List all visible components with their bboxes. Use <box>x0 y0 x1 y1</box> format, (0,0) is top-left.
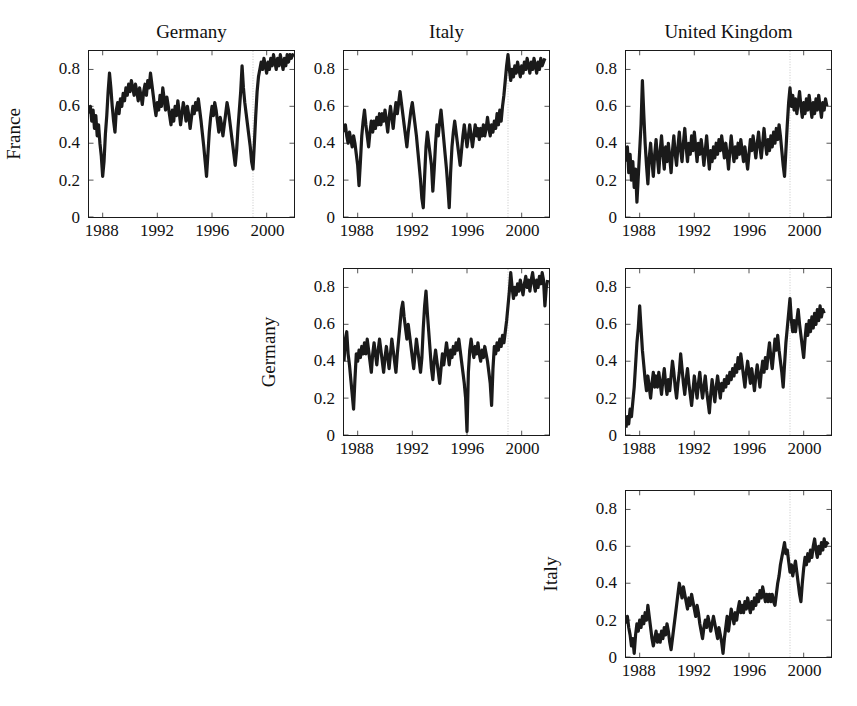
xtick-label: 2000 <box>490 440 554 457</box>
axis-ticks-france-uk <box>626 51 831 217</box>
row-label-france: France <box>4 59 26 209</box>
plot-panel-italy-uk <box>625 490 832 658</box>
ytick-label: 0.2 <box>571 172 617 189</box>
ytick-label: 0.6 <box>571 97 617 114</box>
series-line-france-uk <box>626 81 827 203</box>
plot-panel-germany-uk <box>625 268 832 436</box>
axis-ticks-germany-uk <box>626 269 831 435</box>
column-title-italy: Italy <box>343 22 550 41</box>
series-line-italy-uk <box>626 539 828 653</box>
row-label-germany: Germany <box>259 277 281 427</box>
axis-ticks-france-italy <box>344 51 549 217</box>
ytick-label: 0.2 <box>289 390 335 407</box>
ytick-label: 0.8 <box>571 278 617 295</box>
plot-panel-germany-italy <box>343 268 550 436</box>
ytick-label: 0.4 <box>34 134 80 151</box>
row-label-italy: Italy <box>541 499 563 649</box>
ytick-label: 0.8 <box>571 500 617 517</box>
plot-panel-france-germany <box>88 50 295 218</box>
ytick-label: 0.8 <box>289 60 335 77</box>
ytick-label: 0.8 <box>571 60 617 77</box>
ytick-label: 0.4 <box>571 134 617 151</box>
column-title-united-kingdom: United Kingdom <box>625 22 832 41</box>
series-line-france-italy <box>344 55 545 208</box>
ytick-label: 0.8 <box>34 60 80 77</box>
ytick-label: 0.6 <box>571 315 617 332</box>
ytick-label: 0.6 <box>289 97 335 114</box>
ytick-label: 0.2 <box>571 612 617 629</box>
ytick-label: 0.4 <box>289 134 335 151</box>
ytick-label: 0.6 <box>571 537 617 554</box>
ytick-label: 0.2 <box>34 172 80 189</box>
ytick-label: 0.6 <box>289 315 335 332</box>
xtick-label: 2000 <box>490 222 554 239</box>
ytick-label: 0.2 <box>571 390 617 407</box>
series-line-germany-italy <box>344 273 548 432</box>
axis-ticks-france-germany <box>89 51 294 217</box>
plot-panel-france-italy <box>343 50 550 218</box>
ytick-label: 0.6 <box>34 97 80 114</box>
ytick-label: 0.8 <box>289 278 335 295</box>
figure-canvas: GermanyItalyUnited Kingdom00.20.40.60.81… <box>0 0 857 706</box>
plot-panel-france-uk <box>625 50 832 218</box>
ytick-label: 0.4 <box>289 352 335 369</box>
xtick-label: 2000 <box>772 222 836 239</box>
xtick-label: 2000 <box>772 662 836 679</box>
column-title-germany: Germany <box>88 22 295 41</box>
ytick-label: 0.4 <box>571 574 617 591</box>
ytick-label: 0.2 <box>289 172 335 189</box>
series-line-france-germany <box>89 55 294 177</box>
xtick-label: 2000 <box>772 440 836 457</box>
series-line-germany-uk <box>626 299 824 428</box>
ytick-label: 0.4 <box>571 352 617 369</box>
